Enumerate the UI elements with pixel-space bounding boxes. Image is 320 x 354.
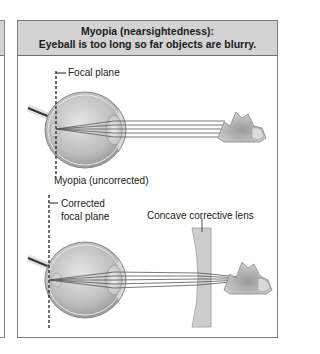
corrected-focal-label-line2: focal plane: [61, 211, 109, 223]
myopia-uncorrected-caption: Myopia (uncorrected): [54, 175, 148, 187]
concave-lens-label: Concave corrective lens: [147, 210, 254, 222]
corrected-focal-label-line1: Corrected: [61, 198, 105, 210]
top-eye-illustration: [28, 92, 126, 168]
top-far-object-mountain: [218, 112, 266, 142]
bottom-far-object-mountain: [224, 262, 272, 294]
concave-corrective-lens: [192, 228, 211, 327]
focal-plane-label: Focal plane: [68, 67, 120, 79]
